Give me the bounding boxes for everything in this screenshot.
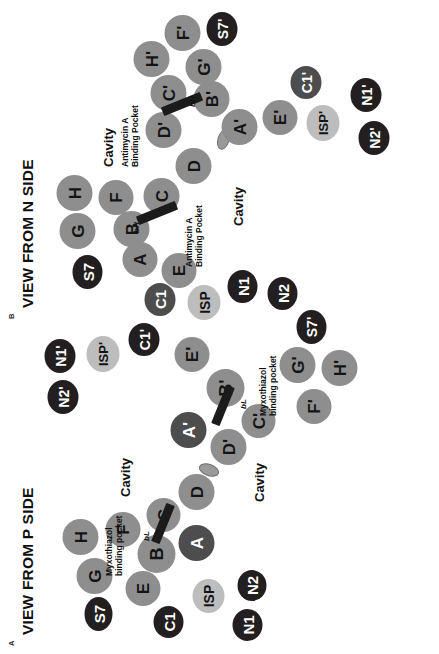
- node-n1[interactable]: N1: [227, 270, 257, 303]
- node-label: E': [183, 347, 200, 362]
- node-label: D: [188, 486, 205, 498]
- node-isp-prime[interactable]: ISP': [306, 105, 339, 141]
- node-n2-prime[interactable]: N2': [358, 121, 389, 155]
- helix-label-bh: bH: [132, 222, 141, 233]
- node-n1[interactable]: N1: [232, 609, 262, 641]
- node-e[interactable]: E: [125, 571, 160, 606]
- node-c1[interactable]: C1: [144, 283, 175, 316]
- node-c1-prime[interactable]: C1': [128, 323, 159, 356]
- cavity-label-upper: Cavity: [118, 458, 133, 497]
- node-s7[interactable]: S7: [84, 597, 112, 631]
- node-label: B': [203, 91, 220, 107]
- node-g-prime[interactable]: G': [185, 49, 221, 85]
- node-label: ISP': [96, 342, 109, 366]
- node-label: N1: [240, 615, 255, 634]
- cavity-label-upper: Cavity: [101, 128, 116, 167]
- node-g-prime[interactable]: G': [279, 347, 315, 383]
- node-isp[interactable]: ISP: [187, 285, 220, 320]
- node-label: C: [153, 190, 170, 202]
- node-label: C': [160, 85, 177, 101]
- node-h[interactable]: H: [56, 175, 92, 211]
- node-g[interactable]: G: [59, 213, 95, 249]
- node-label: H: [66, 187, 83, 199]
- node-label: F': [305, 399, 322, 413]
- node-a-prime[interactable]: A': [170, 412, 206, 448]
- cavity-label-lower: Cavity: [231, 187, 246, 226]
- node-label: C1: [161, 612, 176, 631]
- pocket-line-2: Binding Pocket: [129, 105, 139, 167]
- panel-a: A VIEW FROM P SIDE S7 G H F C1 E B C A: [0, 327, 439, 654]
- node-a[interactable]: A: [122, 242, 157, 277]
- node-label: G: [86, 569, 103, 582]
- antimycin-pocket-annotation-prime: Antimycin A Binding Pocket: [120, 105, 139, 167]
- node-f-prime[interactable]: F': [164, 15, 200, 51]
- node-n2[interactable]: N2: [237, 570, 266, 601]
- pocket-line-1: Antimycin A: [119, 118, 129, 167]
- node-isp[interactable]: ISP: [192, 579, 224, 613]
- node-label: F': [174, 26, 191, 40]
- figure-canvas: A VIEW FROM P SIDE S7 G H F C1 E B C A: [0, 0, 439, 654]
- node-d[interactable]: D: [175, 148, 211, 184]
- node-label: F: [107, 192, 124, 202]
- cavity-label-lower: Cavity: [252, 463, 267, 502]
- node-label: G': [289, 356, 306, 373]
- node-c1[interactable]: C1: [153, 606, 183, 638]
- node-label: H': [143, 51, 160, 67]
- node-d-prime[interactable]: D': [145, 112, 181, 148]
- node-label: S7: [80, 263, 95, 281]
- node-label: ISP: [197, 291, 211, 314]
- panel-b-title: VIEW FROM N SIDE: [18, 159, 36, 308]
- node-label: C1': [137, 329, 151, 350]
- node-isp-prime[interactable]: ISP': [86, 336, 119, 372]
- node-h-prime[interactable]: H': [133, 41, 169, 77]
- node-label: A': [180, 422, 197, 438]
- node-h-prime[interactable]: H': [321, 350, 357, 386]
- node-d[interactable]: D: [178, 474, 214, 510]
- pocket-line-1: Myxothiazol: [103, 527, 113, 576]
- node-e-prime[interactable]: E': [174, 337, 209, 372]
- node-c1-prime[interactable]: C1': [290, 66, 321, 99]
- node-f-prime[interactable]: F': [296, 389, 331, 424]
- pocket-line-2: binding pocket: [113, 516, 123, 576]
- panel-a-letter: A: [6, 641, 15, 646]
- node-label: D': [220, 439, 237, 455]
- node-label: C1: [152, 290, 167, 309]
- panel-a-title: VIEW FROM P SIDE: [18, 487, 36, 635]
- antimycin-pocket-annotation: Antimycin A Binding Pocket: [184, 205, 203, 267]
- node-n2-prime[interactable]: N2': [47, 380, 78, 414]
- node-label: N1': [359, 84, 373, 105]
- node-label: A': [231, 119, 248, 135]
- node-label: A: [188, 537, 205, 549]
- node-label: N2: [244, 576, 259, 595]
- node-label: H': [331, 360, 348, 376]
- pocket-line-1: Antimycin A: [183, 218, 193, 267]
- pocket-line-2: Binding Pocket: [193, 205, 203, 267]
- node-label: H: [72, 531, 89, 543]
- node-label: S7': [215, 19, 229, 39]
- node-f[interactable]: F: [98, 180, 133, 215]
- node-label: D: [185, 160, 202, 172]
- node-label: B: [147, 548, 165, 561]
- node-label: G: [69, 224, 86, 237]
- node-s7-prime[interactable]: S7': [206, 12, 237, 46]
- node-a-prime[interactable]: A': [221, 109, 257, 145]
- panel-b: B VIEW FROM N SIDE S7 G H F B A C D E: [0, 0, 439, 327]
- panel-b-letter: B: [6, 314, 15, 319]
- node-label: N2': [56, 386, 70, 407]
- node-label: N1: [235, 277, 250, 296]
- node-label: N2': [367, 127, 381, 148]
- helix-label-bl-prime: bL: [239, 399, 248, 409]
- node-n2[interactable]: N2: [267, 277, 297, 310]
- node-label: S7: [91, 605, 106, 623]
- node-s7[interactable]: S7: [72, 255, 102, 289]
- node-d-prime[interactable]: D': [210, 429, 246, 465]
- node-h[interactable]: H: [62, 519, 98, 555]
- node-n1-prime[interactable]: N1': [44, 339, 75, 373]
- node-n1-prime[interactable]: N1': [350, 78, 381, 112]
- node-label: C1': [299, 72, 313, 93]
- node-a[interactable]: A: [178, 525, 214, 561]
- node-label: E': [271, 110, 288, 125]
- node-e-prime[interactable]: E': [262, 100, 297, 135]
- node-label: G': [195, 58, 212, 75]
- pocket-line-1: Myxothiazol: [257, 367, 267, 416]
